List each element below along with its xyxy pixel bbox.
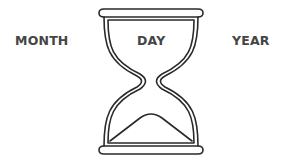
hourglass-icon — [0, 0, 287, 168]
year-label: YEAR — [232, 34, 270, 48]
month-label: MONTH — [15, 34, 69, 48]
day-label: DAY — [137, 34, 166, 48]
